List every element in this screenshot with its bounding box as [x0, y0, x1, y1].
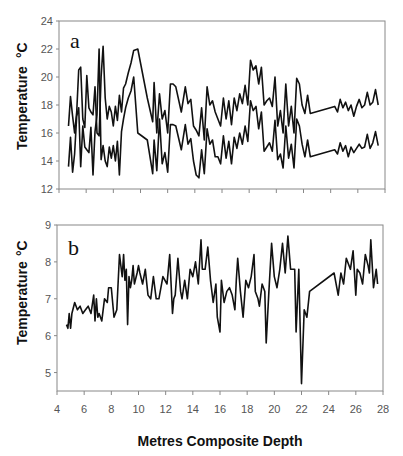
panel-a-unit: °C [14, 42, 30, 58]
y-tick-label: 24 [41, 15, 53, 27]
x-tick-label: 20 [268, 403, 280, 415]
y-tick-label: 20 [41, 71, 53, 83]
x-tick-label: 6 [81, 403, 87, 415]
x-tick-label: 24 [323, 403, 335, 415]
x-tick-label: 22 [295, 403, 307, 415]
x-tick-label: 8 [108, 403, 114, 415]
y-tick-label: 6 [45, 330, 51, 342]
figure: a 12141618202224 Temperature °C b 56789 … [0, 0, 403, 456]
panel-b-series [67, 236, 378, 384]
y-tick-label: 8 [45, 256, 51, 268]
y-tick-label: 5 [45, 367, 51, 379]
panel-a-series [69, 46, 379, 178]
panel-b-ylabel: Temperature [14, 261, 30, 345]
panel-a-label: a [70, 28, 80, 53]
panel-b-unit: °C [14, 240, 30, 256]
panel-b-y-axis: 56789 [45, 219, 57, 379]
x-tick-label: 16 [214, 403, 226, 415]
series-line-upper [69, 46, 379, 140]
y-tick-label: 9 [45, 219, 51, 231]
panel-a: a 12141618202224 Temperature °C [14, 15, 385, 195]
x-tick-label: 26 [350, 403, 362, 415]
x-tick-label: 4 [54, 403, 60, 415]
y-tick-label: 22 [41, 43, 53, 55]
y-tick-label: 12 [41, 183, 53, 195]
x-tick-label: 12 [160, 403, 172, 415]
panel-b: b 56789 46810121416182022242628 Temperat… [14, 219, 389, 415]
y-tick-label: 14 [41, 155, 53, 167]
y-tick-label: 18 [41, 99, 53, 111]
x-tick-label: 28 [377, 403, 389, 415]
panel-a-ylabel: Temperature [14, 66, 30, 150]
x-axis-label: Metres Composite Depth [138, 433, 303, 449]
panel-a-y-axis: 12141618202224 [41, 15, 59, 195]
x-tick-label: 14 [187, 403, 199, 415]
panel-a-x-ticks [59, 189, 385, 193]
series-line-temperature [67, 236, 378, 384]
x-tick-label: 10 [132, 403, 144, 415]
panel-b-x-axis: 46810121416182022242628 [54, 391, 389, 415]
panel-b-label: b [68, 235, 79, 260]
x-tick-label: 18 [241, 403, 253, 415]
y-tick-label: 16 [41, 127, 53, 139]
y-tick-label: 7 [45, 293, 51, 305]
